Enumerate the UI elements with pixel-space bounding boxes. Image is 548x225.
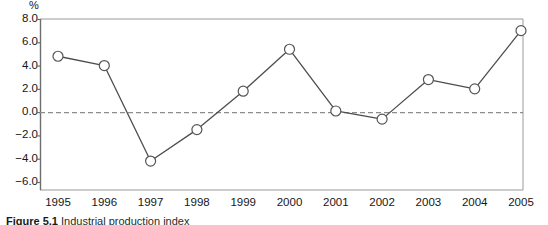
data-point-marker (331, 106, 341, 116)
line-chart-plot (0, 0, 548, 225)
data-point-marker (99, 61, 109, 71)
data-point-marker (192, 125, 202, 135)
figure-caption: Figure 5.1 Industrial production index (6, 215, 189, 225)
figure-container: % 8.06.04.02.00.0−2.0−4.0−6.0 1995199619… (0, 0, 548, 225)
data-point-marker (146, 156, 156, 166)
data-point-marker (238, 86, 248, 96)
data-point-marker (377, 114, 387, 124)
plot-frame (40, 19, 523, 190)
figure-caption-label: Figure 5.1 (6, 215, 58, 225)
data-point-marker (285, 44, 295, 54)
data-point-marker (470, 84, 480, 94)
data-point-marker (516, 26, 526, 36)
figure-caption-text: Industrial production index (61, 215, 189, 225)
data-point-marker (53, 51, 63, 61)
data-point-marker (423, 75, 433, 85)
